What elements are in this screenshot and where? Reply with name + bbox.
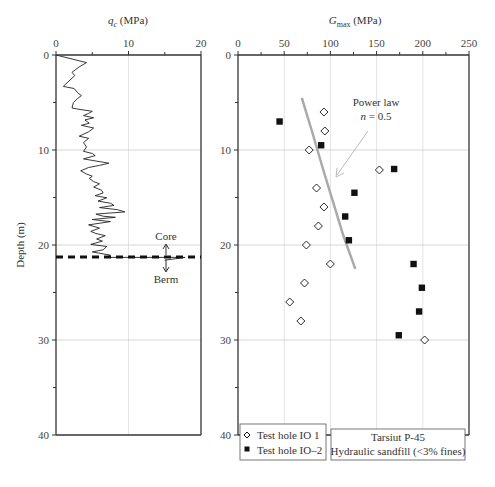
point-io2-filled-square-icon (351, 190, 357, 196)
y-tick-label: 0 (226, 49, 232, 61)
x-tick-label: 10 (123, 37, 135, 49)
power-law-arrow-icon (336, 131, 368, 177)
info-box: Tarsiut P-45 Hydraulic sandfill (<3% fin… (331, 429, 466, 460)
left-x-axis-title: qc (MPa) (108, 14, 148, 29)
x-tick-label: 0 (53, 37, 59, 49)
y-tick-label: 30 (220, 334, 232, 346)
y-tick-label: 0 (44, 49, 50, 61)
core-arrow-icon (163, 244, 169, 255)
point-io1-open-diamond-icon (314, 222, 322, 230)
point-io2-filled-square-icon (416, 308, 422, 314)
right-panel-gmax: 050100150200250010203040 Gmax (MPa) Powe… (220, 14, 478, 460)
y-tick-label: 20 (38, 239, 50, 251)
legend: Test hole IO 1 Test hole IO–2 (240, 424, 326, 460)
point-io2-filled-square-icon (410, 261, 416, 267)
x-tick-label: 50 (279, 37, 291, 49)
point-io1-open-diamond-icon (321, 127, 329, 135)
point-io1-open-diamond-icon (320, 108, 328, 116)
power-law-label: Power law (353, 96, 400, 108)
left-ticks: 01020010203040 (38, 37, 207, 441)
left-grid (56, 55, 201, 435)
y-tick-label: 30 (38, 334, 50, 346)
legend-item-io2: Test hole IO–2 (257, 444, 322, 456)
x-tick-label: 200 (415, 37, 432, 49)
x-tick-label: 20 (196, 37, 208, 49)
point-io2-filled-square-icon (419, 285, 425, 291)
chart-canvas: 01020010203040 qc (MPa) Depth (m) Core B… (0, 0, 495, 487)
point-io1-open-diamond-icon (302, 241, 310, 249)
x-tick-label: 150 (368, 37, 385, 49)
right-grid (238, 55, 469, 435)
point-io1-open-diamond-icon (320, 203, 328, 211)
left-panel-qc: 01020010203040 qc (MPa) Depth (m) Core B… (14, 14, 207, 441)
point-io1-open-diamond-icon (421, 336, 429, 344)
info-material: Hydraulic sandfill (<3% fines) (331, 445, 466, 458)
x-tick-label: 0 (235, 37, 241, 49)
core-label: Core (155, 230, 177, 242)
y-tick-label: 20 (220, 239, 232, 251)
point-io1-open-diamond-icon (313, 184, 321, 192)
point-io1-open-diamond-icon (301, 279, 309, 287)
y-tick-label: 40 (220, 429, 232, 441)
right-x-axis-title: Gmax (MPa) (329, 14, 382, 29)
point-io2-filled-square-icon (276, 118, 282, 124)
point-io2-filled-square-icon (346, 237, 352, 243)
y-axis-title: Depth (m) (14, 222, 27, 268)
legend-item-io1: Test hole IO 1 (257, 429, 319, 441)
point-io2-filled-square-icon (342, 213, 348, 219)
point-io2-filled-square-icon (396, 332, 402, 338)
berm-arrow-icon (163, 259, 169, 272)
y-tick-label: 40 (38, 429, 50, 441)
point-io1-open-diamond-icon (297, 317, 305, 325)
gmax-points (276, 108, 428, 344)
power-law-exponent: n = 0.5 (361, 110, 392, 122)
x-tick-label: 100 (322, 37, 339, 49)
point-io1-open-diamond-icon (286, 298, 294, 306)
filled-square-icon (245, 447, 250, 452)
point-io2-filled-square-icon (318, 142, 324, 148)
point-io1-open-diamond-icon (305, 146, 313, 154)
point-io1-open-diamond-icon (326, 260, 334, 268)
berm-label: Berm (154, 273, 179, 285)
x-tick-label: 250 (461, 37, 478, 49)
y-tick-label: 10 (38, 144, 50, 156)
y-tick-label: 10 (220, 144, 232, 156)
info-site-name: Tarsiut P-45 (371, 431, 425, 443)
point-io2-filled-square-icon (391, 166, 397, 172)
